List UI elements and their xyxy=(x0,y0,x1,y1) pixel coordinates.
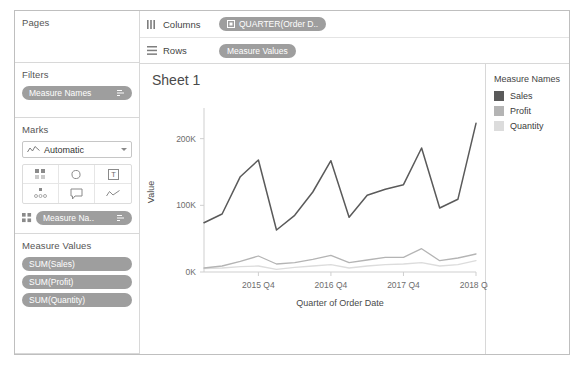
legend-label: Profit xyxy=(510,106,531,116)
filters-card[interactable]: Filters Measure Names xyxy=(15,63,139,118)
columns-shelf[interactable]: Columns QUARTER(Order D.. xyxy=(140,11,569,37)
left-sidebar: Pages Filters Measure Names Marks xyxy=(15,11,140,354)
legend-label: Quantity xyxy=(510,121,544,131)
color-button[interactable] xyxy=(23,165,59,184)
measure-pill-profit[interactable]: SUM(Profit) xyxy=(22,275,132,289)
rows-shelf[interactable]: Rows Measure Values xyxy=(140,37,569,63)
svg-text:Quarter of Order Date: Quarter of Order Date xyxy=(296,298,384,308)
marks-card: Marks Automatic xyxy=(15,118,139,234)
measure-values-card: Measure Values SUM(Sales) SUM(Profit) SU… xyxy=(15,234,139,354)
mark-type-dropdown[interactable]: Automatic xyxy=(22,141,132,158)
legend-swatch xyxy=(494,121,504,131)
line-chart: 0K100K200KValue2015 Q42016 Q42017 Q42018… xyxy=(140,64,488,326)
columns-pill-label: QUARTER(Order D.. xyxy=(239,19,318,29)
sort-icon[interactable] xyxy=(117,214,125,222)
svg-text:2015 Q4: 2015 Q4 xyxy=(242,280,275,290)
line-chart-icon xyxy=(27,145,40,154)
filters-card-title: Filters xyxy=(22,69,132,80)
marks-card-title: Marks xyxy=(22,124,132,135)
legend-item-profit[interactable]: Profit xyxy=(494,106,561,116)
page-title: Sheet 1 xyxy=(152,72,200,88)
measure-values-title: Measure Values xyxy=(22,240,132,251)
legend-swatch xyxy=(494,91,504,101)
legend-item-quantity[interactable]: Quantity xyxy=(494,121,561,131)
columns-pill-quarter-order-date[interactable]: QUARTER(Order D.. xyxy=(219,17,326,31)
calendar-icon xyxy=(227,20,235,28)
filter-pill-measure-names[interactable]: Measure Names xyxy=(22,86,132,100)
columns-icon xyxy=(146,20,158,29)
svg-text:200K: 200K xyxy=(176,134,196,144)
svg-text:2016 Q4: 2016 Q4 xyxy=(315,280,348,290)
svg-text:100K: 100K xyxy=(176,200,196,210)
pages-card-title: Pages xyxy=(22,17,132,28)
legend-swatch xyxy=(494,106,504,116)
legend-title: Measure Names xyxy=(494,74,561,84)
rows-icon xyxy=(146,46,158,55)
legend-label: Sales xyxy=(510,91,533,101)
tooltip-button[interactable] xyxy=(59,184,95,203)
svg-text:T: T xyxy=(111,170,116,179)
measure-pill-label: SUM(Sales) xyxy=(29,259,125,269)
marks-pill-label: Measure Na.. xyxy=(43,213,114,223)
legend-item-sales[interactable]: Sales xyxy=(494,91,561,101)
worksheet-area: Sheet 1 0K100K200KValue2015 Q42016 Q4201… xyxy=(140,64,569,354)
color-dots-icon xyxy=(22,213,32,223)
tableau-worksheet-window: Pages Filters Measure Names Marks xyxy=(14,10,570,355)
marks-pill-measure-names[interactable]: Measure Na.. xyxy=(36,211,132,225)
svg-text:2018 Q4: 2018 Q4 xyxy=(460,280,488,290)
measure-pill-label: SUM(Profit) xyxy=(29,277,125,287)
chevron-down-icon[interactable] xyxy=(121,148,127,151)
svg-text:2017 Q4: 2017 Q4 xyxy=(387,280,420,290)
measure-names-legend: Measure Names Sales Profit Quantity xyxy=(485,64,569,354)
detail-button[interactable] xyxy=(23,184,59,203)
path-button[interactable] xyxy=(95,184,131,203)
measure-pill-label: SUM(Quantity) xyxy=(29,295,125,305)
svg-text:Value: Value xyxy=(146,181,156,203)
mark-property-buttons: T xyxy=(22,164,132,204)
sort-icon[interactable] xyxy=(117,89,125,97)
right-pane: Columns QUARTER(Order D.. xyxy=(140,11,569,354)
label-button[interactable]: T xyxy=(95,165,131,184)
chart-canvas[interactable]: Sheet 1 0K100K200KValue2015 Q42016 Q4201… xyxy=(140,64,485,354)
rows-pill-label: Measure Values xyxy=(227,46,288,56)
measure-pill-quantity[interactable]: SUM(Quantity) xyxy=(22,293,132,307)
mark-type-label: Automatic xyxy=(44,145,121,155)
filter-pill-label: Measure Names xyxy=(29,88,114,98)
marks-encoding-row: Measure Na.. xyxy=(22,211,132,225)
shelf-area: Columns QUARTER(Order D.. xyxy=(140,11,569,64)
rows-shelf-label: Rows xyxy=(163,45,219,56)
pages-card[interactable]: Pages xyxy=(15,11,139,63)
measure-pill-sales[interactable]: SUM(Sales) xyxy=(22,257,132,271)
size-button[interactable] xyxy=(59,165,95,184)
columns-shelf-label: Columns xyxy=(163,19,219,30)
svg-text:0K: 0K xyxy=(186,267,197,277)
rows-pill-measure-values[interactable]: Measure Values xyxy=(219,44,296,58)
